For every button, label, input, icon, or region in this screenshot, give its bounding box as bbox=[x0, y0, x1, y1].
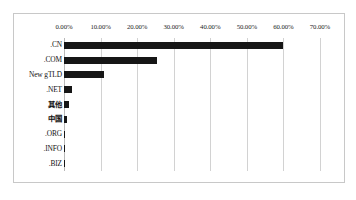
bar bbox=[64, 57, 157, 64]
y-axis-category-labels: .CN.COMNew gTLD.NET其他中国.ORG.INFO.BIZ bbox=[14, 38, 62, 171]
x-tick-label: 30.00% bbox=[164, 21, 184, 33]
chart-frame: 0.00%10.00%20.00%30.00%40.00%50.00%60.00… bbox=[13, 13, 345, 183]
bar bbox=[64, 71, 104, 78]
gridline-70 bbox=[320, 38, 321, 171]
bar-series bbox=[64, 38, 320, 171]
y-category-label: .ORG bbox=[14, 130, 62, 138]
bar bbox=[64, 116, 67, 123]
y-category-label: .INFO bbox=[14, 145, 62, 153]
x-tick-label: 0.00% bbox=[55, 21, 72, 33]
bar bbox=[64, 160, 65, 167]
y-category-label: .COM bbox=[14, 56, 62, 64]
x-tick-label: 60.00% bbox=[273, 21, 293, 33]
x-tick-label: 20.00% bbox=[127, 21, 147, 33]
x-tick-label: 50.00% bbox=[237, 21, 257, 33]
bar bbox=[64, 145, 65, 152]
x-tick-label: 10.00% bbox=[90, 21, 110, 33]
bar bbox=[64, 131, 65, 138]
y-category-label: .CN bbox=[14, 41, 62, 49]
y-category-label: .BIZ bbox=[14, 160, 62, 168]
x-tick-label: 40.00% bbox=[200, 21, 220, 33]
y-category-label: 其他 bbox=[14, 101, 62, 109]
y-category-label: .NET bbox=[14, 86, 62, 94]
x-tick-label: 70.00% bbox=[310, 21, 330, 33]
bar bbox=[64, 86, 72, 93]
x-axis-tick-labels: 0.00%10.00%20.00%30.00%40.00%50.00%60.00… bbox=[64, 21, 320, 35]
y-category-label: New gTLD bbox=[14, 71, 62, 79]
plot-area bbox=[64, 38, 320, 171]
bar bbox=[64, 42, 283, 49]
y-category-label: 中国 bbox=[14, 115, 62, 123]
bar bbox=[64, 101, 69, 108]
